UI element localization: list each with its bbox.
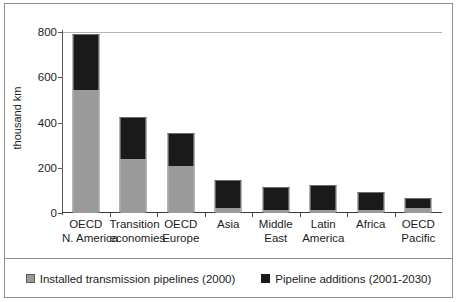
bar-segment-installed bbox=[358, 210, 383, 213]
x-axis-labels: OECDN. AmericaTransitioneconomiesOECDEur… bbox=[62, 217, 442, 257]
x-axis-label: OECDPacific bbox=[395, 217, 443, 245]
bar-segment-installed bbox=[311, 210, 336, 213]
bar-segment-installed bbox=[263, 210, 288, 213]
bar-slot bbox=[395, 32, 443, 213]
bar-middle-east[interactable] bbox=[262, 187, 289, 213]
bar-africa[interactable] bbox=[357, 192, 384, 213]
bar-oecd-europe[interactable] bbox=[167, 133, 194, 213]
bar-segment-additions bbox=[73, 35, 98, 89]
legend-swatch-gray-icon bbox=[26, 274, 35, 283]
bar-slot bbox=[205, 32, 253, 213]
legend-item-additions: Pipeline additions (2001-2030) bbox=[261, 273, 431, 285]
bar-transition-economies[interactable] bbox=[120, 117, 147, 213]
bar-segment-installed bbox=[121, 159, 146, 213]
chart-figure: thousand km 0200400600800 OECDN. America… bbox=[0, 0, 458, 302]
x-axis-label: MiddleEast bbox=[252, 217, 300, 245]
y-tick-label-0: 0 bbox=[23, 207, 57, 219]
bar-slot bbox=[62, 32, 110, 213]
bar-slot bbox=[300, 32, 348, 213]
y-tick-label-600: 600 bbox=[23, 71, 57, 83]
y-tick-label-800: 800 bbox=[23, 26, 57, 38]
bar-segment-additions bbox=[311, 186, 336, 210]
bar-slot bbox=[347, 32, 395, 213]
x-axis-label: Transitioneconomies bbox=[110, 217, 158, 245]
bar-slot bbox=[252, 32, 300, 213]
bar-segment-additions bbox=[263, 188, 288, 209]
x-axis-label: OECDEurope bbox=[157, 217, 205, 245]
x-axis-label: Asia bbox=[205, 217, 253, 231]
bar-segment-installed bbox=[73, 90, 98, 213]
bar-oecd-n-america[interactable] bbox=[72, 34, 99, 213]
bar-slot bbox=[157, 32, 205, 213]
legend-item-installed: Installed transmission pipelines (2000) bbox=[26, 273, 236, 285]
bar-segment-additions bbox=[358, 193, 383, 211]
y-tick-mark-0 bbox=[58, 213, 62, 214]
bar-segment-additions bbox=[406, 199, 431, 208]
bar-slot bbox=[110, 32, 158, 213]
bar-segment-additions bbox=[121, 118, 146, 159]
bar-latin-america[interactable] bbox=[310, 185, 337, 213]
legend-label-installed: Installed transmission pipelines (2000) bbox=[40, 273, 236, 285]
y-tick-label-400: 400 bbox=[23, 117, 57, 129]
bar-segment-installed bbox=[168, 166, 193, 214]
bar-segment-additions bbox=[168, 134, 193, 166]
legend-swatch-black-icon bbox=[261, 274, 270, 283]
bar-oecd-pacific[interactable] bbox=[405, 198, 432, 213]
bar-series-group bbox=[62, 32, 442, 213]
x-axis-label: LatinAmerica bbox=[300, 217, 348, 245]
chart-legend: Installed transmission pipelines (2000) … bbox=[4, 258, 453, 298]
bar-asia[interactable] bbox=[215, 180, 242, 213]
x-axis-label: Africa bbox=[347, 217, 395, 231]
y-tick-label-200: 200 bbox=[23, 162, 57, 174]
x-axis-label: OECDN. America bbox=[62, 217, 110, 245]
bar-segment-installed bbox=[406, 208, 431, 213]
legend-label-additions: Pipeline additions (2001-2030) bbox=[275, 273, 431, 285]
plot-area: 0200400600800 bbox=[62, 32, 442, 213]
bar-segment-additions bbox=[216, 181, 241, 208]
bar-segment-installed bbox=[216, 208, 241, 213]
